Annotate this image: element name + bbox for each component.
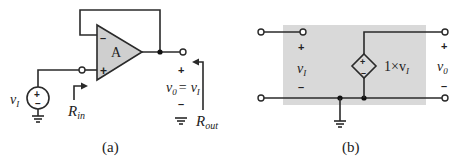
source-voltage-label: vI xyxy=(10,92,20,109)
ground-icon-b xyxy=(334,121,346,127)
input-wire xyxy=(38,70,79,87)
output-bottom-terminal xyxy=(442,95,448,101)
output-terminal xyxy=(180,49,186,55)
output-plus-sign-b: + xyxy=(441,40,447,52)
rin-arrow-icon xyxy=(74,83,88,101)
output-voltage-equation: v0=vI xyxy=(166,80,201,97)
ground-icon xyxy=(32,116,44,122)
figure-a-voltage-follower: A – + + – vI Rin + xyxy=(10,10,218,156)
dep-source-plus: + xyxy=(360,57,365,67)
input-minus-sign: – xyxy=(298,81,304,93)
opamp-noninverting-sign: + xyxy=(100,64,107,78)
output-top-terminal xyxy=(442,29,448,35)
caption-a: (a) xyxy=(102,139,119,156)
rin-label: Rin xyxy=(67,103,85,121)
input-terminal xyxy=(79,67,85,73)
output-node-dot xyxy=(157,49,162,54)
circuit-figure: A – + + – vI Rin + xyxy=(0,0,462,166)
output-voltage-label-b: v0 xyxy=(437,59,448,76)
caption-b: (b) xyxy=(342,139,360,156)
opamp-inverting-sign: – xyxy=(100,32,106,44)
rout-label: Rout xyxy=(195,113,218,131)
opamp-gain-label: A xyxy=(111,45,122,60)
input-bottom-terminal xyxy=(258,95,264,101)
output-minus-sign-b: – xyxy=(441,80,447,92)
input-plus-sign: + xyxy=(298,41,304,53)
figure-b-equivalent-circuit: + vI – + – 1×vI + v0 – xyxy=(258,25,448,156)
dep-source-minus: – xyxy=(361,68,366,78)
input-top-terminal-outer xyxy=(258,29,264,35)
source-minus-sign: – xyxy=(35,98,41,109)
input-top-terminal-inner xyxy=(300,29,306,35)
output-plus-sign: + xyxy=(178,64,184,76)
output-ground-icon xyxy=(175,118,187,124)
output-minus-sign: – xyxy=(178,98,184,110)
